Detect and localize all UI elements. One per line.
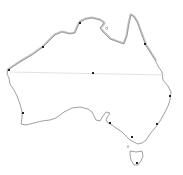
south-coast-marker-icon (109, 122, 111, 124)
southwest-coast-marker-icon (22, 112, 24, 114)
island (105, 27, 108, 30)
northeast-coast-marker-icon (144, 43, 146, 45)
center-marker-icon (92, 72, 94, 74)
south-coast-marker-2-icon (131, 136, 133, 138)
north-coast-marker-icon (79, 22, 81, 24)
tasmania-marker-icon (136, 162, 138, 164)
east-coast-marker-icon (169, 95, 171, 97)
southeast-coast-marker-icon (156, 123, 158, 125)
australia-map (0, 0, 183, 175)
west-coast-marker-icon (8, 69, 10, 71)
northwest-coast-marker-icon (42, 46, 44, 48)
mainland-coastline (7, 15, 171, 144)
island (127, 146, 129, 148)
